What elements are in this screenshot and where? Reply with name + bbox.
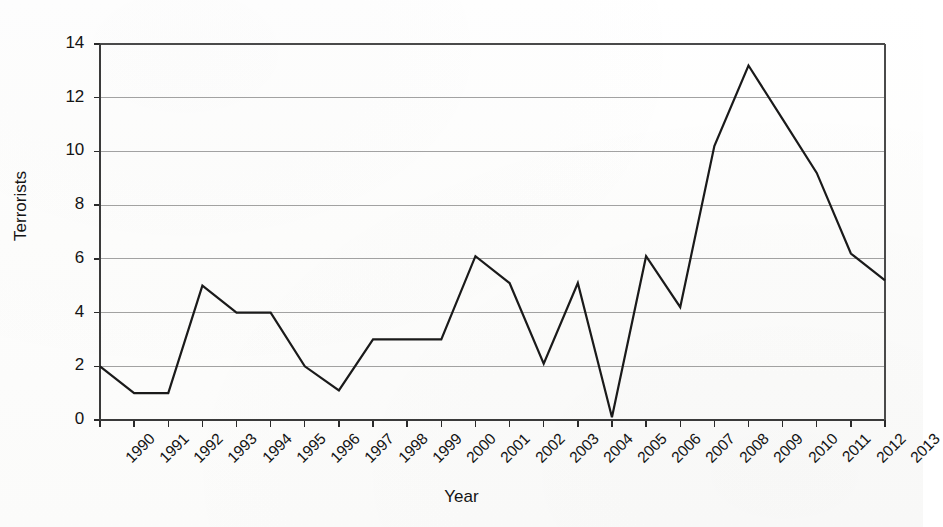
axis-ticks (94, 44, 885, 427)
data-line-terrorists (100, 65, 885, 417)
plot-frame (100, 44, 885, 420)
gridlines (100, 44, 885, 420)
